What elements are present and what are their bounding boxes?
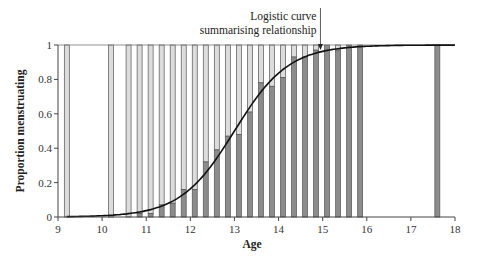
bar-not-menstruating [192,45,197,189]
bar-menstruating [148,214,153,217]
bar-menstruating [236,134,241,217]
y-tick-label: 0 [47,211,53,223]
bar-not-menstruating [126,45,131,217]
bar-menstruating [314,50,319,217]
y-tick-label: 0.2 [38,177,52,189]
curve-annotation: Logistic curve summarising relationship [200,8,323,50]
x-tick-label: 18 [450,223,462,235]
x-axis-ticks: 9101112131415161718 [55,217,461,235]
bar-not-menstruating [203,45,208,162]
y-tick-label: 0.4 [38,142,52,154]
bar-menstruating [435,45,440,217]
logistic-chart: 9101112131415161718 00.20.40.60.81 Age P… [0,0,480,260]
y-tick-label: 0.6 [38,108,52,120]
bar-not-menstruating [64,45,69,217]
x-tick-label: 16 [361,223,373,235]
bar-series [64,45,440,217]
axes [58,45,455,217]
bar-menstruating [225,136,230,217]
x-tick-label: 13 [229,223,241,235]
bar-menstruating [247,112,252,217]
x-tick-label: 12 [185,223,196,235]
bar-menstruating [192,189,197,217]
x-tick-label: 14 [273,223,285,235]
bar-menstruating [269,86,274,217]
bar-menstruating [170,203,175,217]
bar-menstruating [291,57,296,217]
bar-not-menstruating [258,45,263,83]
bar-menstruating [137,214,142,217]
bar-not-menstruating [291,45,296,57]
bar-not-menstruating [137,45,142,214]
y-tick-label: 0.8 [38,73,52,85]
x-tick-label: 17 [405,223,417,235]
bar-menstruating [347,45,352,217]
bar-menstruating [280,78,285,217]
bar-menstruating [336,50,341,217]
x-tick-label: 9 [55,223,61,235]
bar-not-menstruating [247,45,252,112]
bar-menstruating [258,83,263,217]
bar-not-menstruating [170,45,175,203]
bar-menstruating [325,45,330,217]
bar-menstruating [358,45,363,217]
bar-not-menstruating [314,45,319,50]
annotation-line-2: summarising relationship [200,24,317,37]
x-axis-title: Age [243,238,262,251]
bar-menstruating [303,57,308,217]
y-tick-label: 1 [47,39,53,51]
annotation-line-1: Logistic curve [250,10,316,23]
y-axis-ticks: 00.20.40.60.81 [38,39,58,223]
x-tick-label: 15 [317,223,329,235]
bar-not-menstruating [148,45,153,214]
y-axis-title: Proportion menstruating [14,69,27,192]
x-tick-label: 11 [141,223,152,235]
bar-not-menstruating [280,45,285,78]
bar-not-menstruating [159,45,164,205]
bar-not-menstruating [214,45,219,150]
bar-not-menstruating [225,45,230,136]
bar-not-menstruating [181,45,186,189]
bar-not-menstruating [108,45,113,217]
x-tick-label: 10 [97,223,109,235]
